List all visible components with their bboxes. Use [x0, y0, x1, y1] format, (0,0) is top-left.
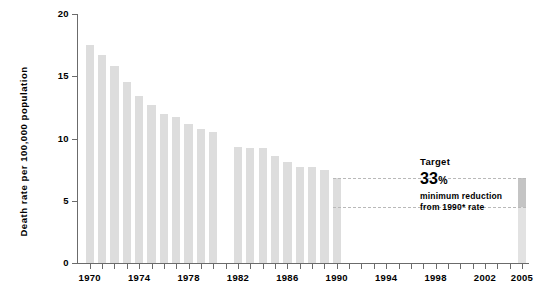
x-tick [399, 264, 400, 269]
bar [160, 114, 168, 263]
x-tick [164, 264, 165, 269]
x-tick-label: 2005 [499, 272, 545, 283]
y-tick-label: 15 [43, 70, 69, 81]
target-percent-symbol: % [438, 174, 448, 186]
bar [283, 162, 291, 263]
y-tick [72, 14, 77, 15]
x-tick [127, 264, 128, 269]
bar [296, 167, 304, 263]
y-tick-label: 5 [43, 195, 69, 206]
bar [259, 148, 267, 263]
bar [333, 178, 341, 263]
y-tick [72, 263, 77, 264]
x-tick [263, 264, 264, 269]
x-tick [312, 264, 313, 269]
x-tick [324, 264, 325, 269]
x-tick [189, 264, 190, 269]
x-tick [152, 264, 153, 269]
x-tick-label: 1978 [166, 272, 212, 283]
x-tick [250, 264, 251, 269]
x-tick-label: 1970 [67, 272, 113, 283]
x-tick [497, 264, 498, 269]
x-tick [448, 264, 449, 269]
bar [98, 55, 106, 263]
bar [308, 167, 316, 263]
x-tick [337, 264, 338, 269]
y-tick-label: 10 [43, 133, 69, 144]
target-annotation-line3: minimum reduction [420, 191, 544, 202]
bar [234, 147, 242, 263]
bar [209, 132, 217, 263]
x-tick [300, 264, 301, 269]
x-tick-label: 1986 [264, 272, 310, 283]
x-tick [213, 264, 214, 269]
bar [147, 105, 155, 263]
x-tick [510, 264, 511, 269]
x-tick-label: 1990 [314, 272, 360, 283]
y-tick-label: 20 [43, 8, 69, 19]
x-tick [349, 264, 350, 269]
x-tick [102, 264, 103, 269]
x-tick-label: 1974 [116, 272, 162, 283]
x-tick [226, 264, 227, 269]
x-tick [176, 264, 177, 269]
bar [271, 156, 279, 263]
x-tick [436, 264, 437, 269]
bar [184, 124, 192, 263]
target-annotation-value: 33% [420, 169, 544, 189]
x-tick-label: 1998 [413, 272, 459, 283]
bar [197, 129, 205, 263]
x-tick [238, 264, 239, 269]
target-annotation-line4: from 1990* rate [420, 202, 544, 213]
bar [246, 148, 254, 263]
y-tick [72, 76, 77, 77]
x-tick [485, 264, 486, 269]
y-tick-label: 0 [43, 257, 69, 268]
x-tick [139, 264, 140, 269]
bar [123, 82, 131, 263]
x-tick-label: 1982 [215, 272, 261, 283]
x-tick [201, 264, 202, 269]
x-tick [386, 264, 387, 269]
target-annotation-line1: Target [420, 156, 544, 168]
x-tick [90, 264, 91, 269]
y-axis-line [77, 14, 78, 264]
death-rate-bar-chart: Death rate per 100,000 population 051015… [0, 0, 546, 303]
y-axis-title: Death rate per 100,000 population [12, 0, 34, 303]
x-tick [287, 264, 288, 269]
x-tick [374, 264, 375, 269]
x-tick [361, 264, 362, 269]
bar [86, 45, 94, 263]
x-tick [460, 264, 461, 269]
bar [320, 170, 328, 263]
x-tick [114, 264, 115, 269]
bar [110, 66, 118, 263]
x-tick-label: 1994 [363, 272, 409, 283]
bar [135, 96, 143, 263]
x-tick [473, 264, 474, 269]
y-tick [72, 201, 77, 202]
x-tick [275, 264, 276, 269]
y-tick [72, 139, 77, 140]
bar [172, 117, 180, 263]
target-annotation: Target 33% minimum reduction from 1990* … [420, 156, 544, 212]
x-tick [411, 264, 412, 269]
target-percent-number: 33 [420, 170, 438, 187]
x-tick [423, 264, 424, 269]
x-tick [522, 264, 523, 269]
